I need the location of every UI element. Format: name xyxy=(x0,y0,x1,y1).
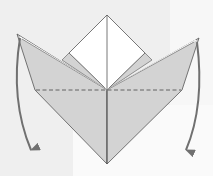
origami-diagram xyxy=(0,0,213,176)
